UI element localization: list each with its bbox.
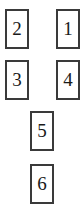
node-label: 5: [37, 121, 47, 140]
diagram-canvas: 213456: [0, 0, 84, 218]
node-box-6[interactable]: 6: [30, 164, 54, 204]
node-label: 2: [12, 19, 22, 38]
node-label: 4: [63, 70, 73, 89]
node-label: 6: [37, 174, 47, 193]
node-label: 1: [63, 19, 73, 38]
node-label: 3: [12, 70, 22, 89]
node-box-5[interactable]: 5: [30, 111, 54, 151]
node-box-3[interactable]: 3: [5, 60, 29, 100]
node-box-1[interactable]: 1: [56, 9, 80, 49]
node-box-2[interactable]: 2: [5, 9, 29, 49]
node-box-4[interactable]: 4: [56, 60, 80, 100]
